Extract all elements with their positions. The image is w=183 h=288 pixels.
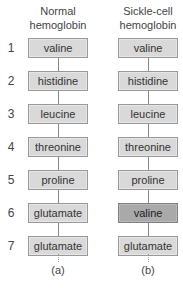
bond-line (58, 91, 59, 104)
continuation-dots (58, 254, 60, 262)
residue-box: leucine (118, 104, 178, 124)
header-line: Sickle-cell (108, 4, 183, 18)
residue-box: histidine (28, 71, 88, 91)
position-number: 3 (6, 107, 16, 121)
header-line: hemoglobin (108, 18, 183, 32)
residue-box: leucine (28, 104, 88, 124)
bond-line (58, 58, 59, 71)
position-number: 5 (6, 173, 16, 187)
residue-box: glutamate (28, 203, 88, 223)
position-number: 1 (6, 41, 16, 55)
bond-line (58, 124, 59, 137)
bond-line (148, 91, 149, 104)
column-header-normal: Normal hemoglobin (18, 4, 98, 32)
bond-line (148, 58, 149, 71)
bond-line (148, 190, 149, 203)
position-number: 4 (6, 140, 16, 154)
residue-box: threonine (28, 137, 88, 157)
residue-box-mutated: valine (118, 203, 178, 223)
bond-line (58, 157, 59, 170)
residue-box: histidine (118, 71, 178, 91)
panel-label-a: (a) (28, 264, 88, 276)
residue-box: threonine (118, 137, 178, 157)
residue-box: valine (118, 38, 178, 58)
position-number: 6 (6, 206, 16, 220)
bond-line (148, 223, 149, 236)
header-line: hemoglobin (18, 18, 98, 32)
residue-box: valine (28, 38, 88, 58)
position-number: 2 (6, 74, 16, 88)
bond-line (58, 223, 59, 236)
position-number: 7 (6, 239, 16, 253)
residue-box: proline (118, 170, 178, 190)
bond-line (58, 190, 59, 203)
column-header-sickle: Sickle-cell hemoglobin (108, 4, 183, 32)
residue-box: glutamate (28, 236, 88, 256)
header-line: Normal (18, 4, 98, 18)
residue-box: proline (28, 170, 88, 190)
continuation-dots (148, 254, 150, 262)
panel-label-b: (b) (118, 264, 178, 276)
residue-box: glutamate (118, 236, 178, 256)
bond-line (148, 124, 149, 137)
bond-line (148, 157, 149, 170)
